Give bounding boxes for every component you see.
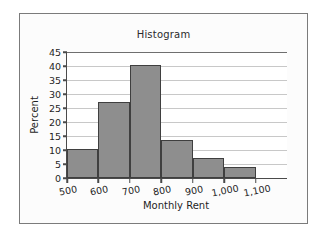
x-axis-tick-label: 1,000 [211,182,240,198]
figure-frame: Histogram Percent 0510152025303540455006… [19,13,308,224]
y-axis-tick-mark [63,107,67,109]
x-axis-tick-mark [98,178,100,183]
y-axis-tick-mark [63,121,67,123]
x-axis-tick-label: 800 [152,183,172,197]
x-axis-tick-label: 700 [121,183,141,197]
y-axis-tick-mark [63,65,67,67]
x-axis-tick-mark [255,178,257,183]
y-axis-tick-mark [63,79,67,81]
x-axis-tick-label: 1,100 [242,182,271,198]
chart-title: Histogram [20,29,307,40]
x-axis-tick-mark [223,178,225,183]
y-axis-title: Percent [29,96,40,134]
x-axis-tick-mark [192,178,194,183]
y-axis-tick-label: 20 [49,117,61,128]
y-axis-tick-label: 5 [55,159,61,170]
gridline [67,80,287,81]
gridline [67,52,287,53]
x-axis-tick-mark [161,178,163,183]
y-axis-tick-label: 35 [49,75,61,86]
histogram-bar [224,167,255,178]
y-axis-tick-mark [63,135,67,137]
histogram-bar [67,149,98,178]
x-axis-tick-label: 500 [58,183,78,197]
y-axis-tick-label: 45 [49,47,61,58]
histogram-bar [130,65,161,178]
histogram-bar [98,102,129,178]
y-axis-tick-label: 25 [49,103,61,114]
plot-area: 0510152025303540455006007008009001,0001,… [66,52,287,179]
x-axis-title: Monthly Rent [66,200,286,211]
gridline [67,94,287,95]
y-axis-tick-label: 30 [49,89,61,100]
y-axis-tick-label: 0 [55,173,61,184]
y-axis-tick-mark [63,51,67,53]
histogram-bar [161,140,192,178]
x-axis-tick-label: 600 [90,183,110,197]
gridline [67,66,287,67]
x-axis-tick-label: 900 [184,183,204,197]
x-axis-tick-mark [66,178,68,183]
histogram-bar [193,158,224,178]
y-axis-tick-mark [63,93,67,95]
x-axis-tick-mark [129,178,131,183]
y-axis-tick-label: 40 [49,61,61,72]
y-axis-tick-label: 10 [49,145,61,156]
y-axis-tick-label: 15 [49,131,61,142]
